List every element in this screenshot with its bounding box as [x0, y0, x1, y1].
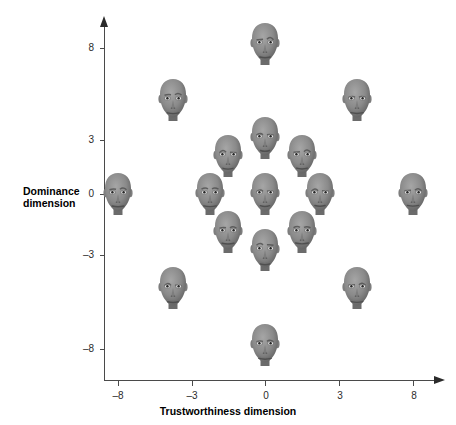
- y-axis-title: Dominance dimension: [23, 185, 80, 209]
- face-x5-y5: [340, 77, 374, 123]
- face-xn8-y0: [101, 171, 135, 217]
- x-ticklabel-n8: –8: [98, 391, 138, 401]
- y-tick-8: [100, 48, 105, 49]
- x-ticklabel-0: 0: [246, 391, 286, 401]
- face-space-scatter-figure: 8 3 0 –3 –8 –8 –3 0 3 8 Dominance dimens…: [0, 0, 456, 425]
- x-tick-3: [339, 381, 340, 386]
- x-axis-title: Trustworthiness dimension: [0, 405, 456, 417]
- face-x0-y8: [248, 21, 282, 67]
- face-xn2-yn2: [211, 209, 245, 255]
- face-x0-y0: [248, 171, 282, 217]
- x-ticklabel-n3: –3: [172, 391, 212, 401]
- face-x8-y0: [396, 171, 430, 217]
- face-xn5-yn5: [156, 265, 190, 311]
- face-x2-yn2: [285, 209, 319, 255]
- y-tick-3: [100, 140, 105, 141]
- x-axis-line: [104, 380, 435, 381]
- face-xn5-y5: [156, 77, 190, 123]
- y-ticklabel-n3: –3: [70, 250, 94, 260]
- y-ticklabel-3: 3: [74, 135, 94, 145]
- y-ticklabel-n8: –8: [70, 344, 94, 354]
- x-tick-8: [413, 381, 414, 386]
- y-axis-arrow-icon: [100, 16, 108, 27]
- y-tick-n3: [100, 255, 105, 256]
- y-axis-title-line1: Dominance: [23, 185, 80, 197]
- x-axis-arrow-icon: [434, 376, 445, 384]
- x-ticklabel-3: 3: [320, 391, 360, 401]
- x-ticklabel-8: 8: [394, 391, 434, 401]
- x-tick-n3: [192, 381, 193, 386]
- x-tick-0: [265, 381, 266, 386]
- y-axis-title-line2: dimension: [23, 197, 76, 209]
- y-tick-n8: [100, 349, 105, 350]
- y-ticklabel-8: 8: [74, 43, 94, 53]
- face-x0-y3: [248, 115, 282, 161]
- x-tick-n8: [118, 381, 119, 386]
- face-x0-yn8: [248, 322, 282, 368]
- face-x5-yn5: [340, 265, 374, 311]
- face-x0-yn3: [248, 227, 282, 273]
